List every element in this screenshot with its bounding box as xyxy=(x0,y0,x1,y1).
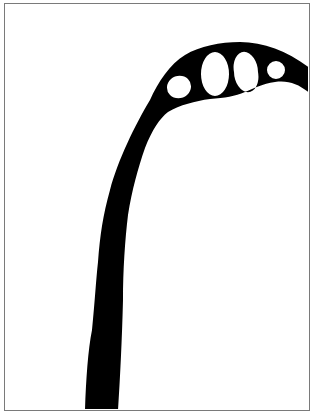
arch-stem-shape xyxy=(85,42,312,410)
silhouette-figure xyxy=(0,0,326,414)
